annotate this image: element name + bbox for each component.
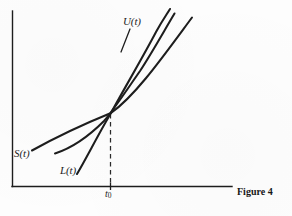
figure-plot (0, 0, 292, 216)
curve-label-s: S(t) (14, 147, 29, 159)
figure-caption: Figure 4 (237, 186, 273, 197)
u-label-leader-line (121, 29, 130, 52)
curve-s-of-t (32, 18, 192, 151)
curve-l-of-t (55, 14, 175, 154)
curve-label-u: U(t) (123, 15, 141, 27)
curve-label-l: L(t) (60, 164, 76, 176)
tick-subscript: 0 (108, 191, 112, 200)
figure-container: U(t) S(t) L(t) t0 Figure 4 (0, 0, 292, 216)
curve-u-of-t (77, 9, 170, 174)
x-axis-tick-label-t0: t0 (105, 188, 111, 200)
